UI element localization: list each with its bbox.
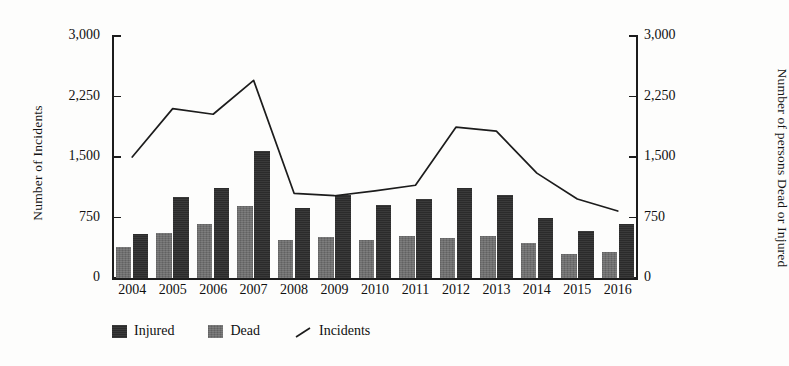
x-tick-label-2010: 2010: [361, 282, 389, 298]
x-tick-label-2014: 2014: [523, 282, 551, 298]
legend-item-injured[interactable]: Injured: [112, 323, 174, 339]
x-tick-label-2011: 2011: [402, 282, 429, 298]
y-tick-label-left-0: 0: [40, 269, 100, 285]
x-tick-label-2004: 2004: [118, 282, 146, 298]
x-tick-label-2009: 2009: [321, 282, 349, 298]
x-axis-labels: 2004200520062007200820092010201120122013…: [112, 282, 638, 304]
x-tick-label-2015: 2015: [563, 282, 591, 298]
legend-label-injured: Injured: [134, 323, 174, 339]
legend-label-dead: Dead: [230, 323, 260, 339]
x-tick-label-2008: 2008: [280, 282, 308, 298]
y-tick-label-left-750: 750: [40, 209, 100, 225]
legend-swatch-injured-icon: [112, 325, 127, 338]
x-tick-label-2007: 2007: [240, 282, 268, 298]
legend-line-icon: [294, 325, 312, 338]
legend-item-dead[interactable]: Dead: [208, 323, 260, 339]
x-tick-label-2012: 2012: [442, 282, 470, 298]
y-tick-label-left-2250: 2,250: [40, 88, 100, 104]
y-axis-right-title: Number of persons Dead or Injured: [774, 43, 789, 293]
y-tick-label-right-3000: 3,000: [644, 27, 704, 43]
y-axis-right-ticks: 07501,5002,2503,000: [644, 0, 704, 366]
chart-figure: Number of Incidents Number of persons De…: [0, 0, 789, 366]
line-series-incidents: [112, 36, 638, 278]
y-tick-label-left-1500: 1,500: [40, 148, 100, 164]
x-tick-label-2016: 2016: [604, 282, 632, 298]
chart-legend: InjuredDeadIncidents: [112, 318, 638, 344]
y-tick-label-left-3000: 3,000: [40, 27, 100, 43]
legend-swatch-dead-icon: [208, 325, 223, 338]
y-tick-label-right-0: 0: [644, 269, 704, 285]
x-tick-label-2005: 2005: [159, 282, 187, 298]
plot-area: [112, 36, 638, 278]
x-tick-label-2006: 2006: [199, 282, 227, 298]
axis-spine-bottom: [112, 278, 638, 280]
y-tick-label-right-750: 750: [644, 209, 704, 225]
legend-item-incidents[interactable]: Incidents: [294, 323, 370, 339]
y-tick-label-right-1500: 1,500: [644, 148, 704, 164]
legend-label-incidents: Incidents: [319, 323, 370, 339]
y-tick-label-right-2250: 2,250: [644, 88, 704, 104]
y-axis-left-ticks: 07501,5002,2503,000: [40, 0, 100, 366]
x-tick-label-2013: 2013: [482, 282, 510, 298]
